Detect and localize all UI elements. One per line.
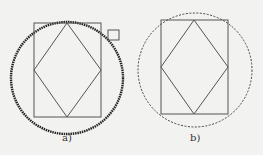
figure-a-label: a) <box>62 132 72 143</box>
circle-b <box>138 13 252 127</box>
diamond-b <box>161 20 228 114</box>
figure-a: a) <box>11 22 123 143</box>
rectangle-a <box>34 23 101 117</box>
marker-square <box>108 30 119 40</box>
rectangle-b <box>161 20 228 114</box>
figure-b-label: b) <box>190 132 200 143</box>
figure-b: b) <box>138 13 252 143</box>
diagram-canvas: a) b) <box>0 0 263 155</box>
diamond-a <box>34 23 101 117</box>
